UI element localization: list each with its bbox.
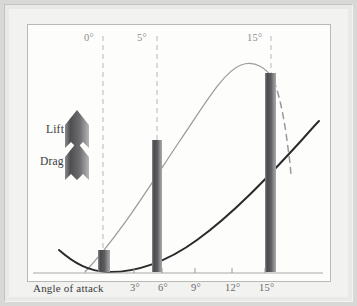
top-marker-label-5deg: 5° (137, 33, 147, 44)
x-tick-label-15deg: 15° (259, 283, 274, 294)
x-tick-label-12deg: 12° (225, 283, 240, 294)
x-tick-label-3deg: 3° (130, 283, 140, 294)
x-axis-title: Angle of attack (33, 283, 104, 294)
top-marker-label-0deg: 0° (84, 33, 94, 44)
legend-arrows (65, 110, 89, 180)
measurement-bars (98, 73, 276, 272)
plot-area (27, 24, 331, 282)
bar-0deg (98, 250, 110, 272)
reference-lines (103, 36, 271, 270)
bar-5deg (152, 140, 162, 272)
drag-chevron-icon (65, 142, 89, 180)
legend-label-drag: Drag (40, 156, 64, 168)
aerodynamics-figure: 0° 5° 15° Lift Drag Angle of attack 3° 6… (0, 0, 357, 306)
lift-curve (85, 63, 274, 272)
lift-curve-stall-dashed (274, 81, 291, 178)
legend-label-lift: Lift (46, 124, 64, 136)
top-marker-label-15deg: 15° (247, 33, 262, 44)
x-tick-label-9deg: 9° (191, 283, 201, 294)
bar-15deg (265, 73, 276, 272)
x-tick-label-6deg: 6° (158, 283, 168, 294)
chart-svg (27, 24, 331, 282)
drag-curve (59, 121, 319, 272)
